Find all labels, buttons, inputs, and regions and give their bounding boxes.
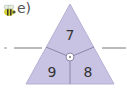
- number-triangle: 7 9 8: [0, 0, 127, 93]
- center-dot: [69, 56, 71, 58]
- number-top: 7: [66, 27, 75, 43]
- number-bottom-right: 8: [84, 64, 93, 80]
- number-bottom-left: 9: [48, 64, 57, 80]
